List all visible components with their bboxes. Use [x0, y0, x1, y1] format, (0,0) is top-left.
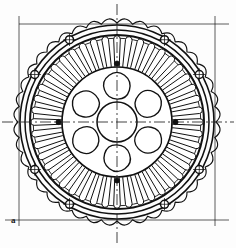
technical-drawing-figure: a — [0, 0, 236, 248]
axis-index-mark-east — [173, 119, 178, 124]
axis-index-mark-north — [114, 61, 119, 66]
rotor-flux-barrier-pocket — [73, 127, 99, 154]
axis-index-mark-south — [114, 178, 119, 183]
rotor-flux-barrier-pocket — [135, 90, 161, 117]
motor-lamination-drawing — [0, 0, 236, 248]
axis-index-mark-west — [56, 119, 61, 124]
figure-caption-label: a — [11, 216, 16, 225]
rotor-flux-barrier-pocket — [135, 127, 162, 153]
rotor-flux-barrier-pocket — [72, 91, 99, 117]
